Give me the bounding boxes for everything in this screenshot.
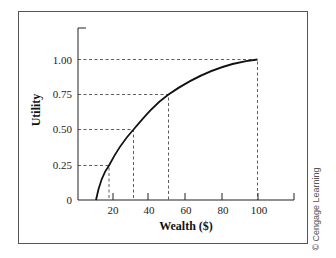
y-tick-label: 0.50 <box>53 123 73 135</box>
x-tick-label: 60 <box>181 204 193 216</box>
y-tick-labels: 0 0.25 0.50 0.75 1.00 <box>53 54 73 206</box>
axis-lines <box>78 28 294 200</box>
guide-0.75 <box>78 95 169 201</box>
x-tick-label: 40 <box>144 204 156 216</box>
x-tick-label: 100 <box>251 204 268 216</box>
axes <box>78 28 294 200</box>
y-tick-label: 0.75 <box>53 88 73 100</box>
y-tick-label: 1.00 <box>53 54 73 66</box>
y-tick-label: 0 <box>67 194 73 206</box>
x-tick-label: 80 <box>218 204 230 216</box>
x-axis-label: Wealth ($) <box>159 219 213 233</box>
copyright-credit: © Cengage Learning <box>311 167 321 250</box>
guide-0.25 <box>78 166 109 201</box>
y-axis-label: Utility <box>29 94 43 127</box>
x-tick-labels: 20 40 60 80 100 <box>108 204 268 216</box>
guide-1.00 <box>78 60 258 201</box>
y-tick-label: 0.25 <box>53 159 73 171</box>
utility-curve <box>96 60 258 201</box>
x-ticks <box>113 193 258 200</box>
x-tick-label: 20 <box>108 204 120 216</box>
utility-chart: 20 40 60 80 100 0 0.25 0.50 0.75 1.00 We… <box>0 0 336 258</box>
reference-guides <box>78 60 258 201</box>
